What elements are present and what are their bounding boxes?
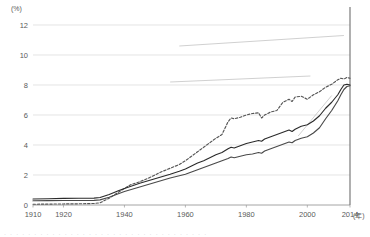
y-tick-6: 6 bbox=[24, 111, 28, 120]
y-tick-0: 0 bbox=[24, 201, 28, 210]
figure-footnote: · · · · · · · · · · · · · · · · · · · · … bbox=[4, 231, 364, 237]
series-dashed bbox=[33, 78, 350, 205]
series-solid-upper bbox=[33, 84, 350, 199]
y-tick-4: 4 bbox=[24, 141, 28, 150]
y-tick-2: 2 bbox=[24, 171, 28, 180]
y-tick-12: 12 bbox=[20, 21, 28, 30]
y-tick-10: 10 bbox=[20, 51, 28, 60]
series-solid-lower bbox=[33, 86, 350, 201]
chart-canvas: 024681012 1910192019401960198020002014 (… bbox=[0, 0, 370, 237]
leader-line-top bbox=[179, 36, 344, 47]
leader-line-low bbox=[298, 96, 332, 137]
leader-line-mid bbox=[170, 76, 310, 82]
data-series-group bbox=[33, 78, 350, 205]
x-axis-unit-label: (年) bbox=[353, 211, 365, 220]
x-tick-2000: 2000 bbox=[299, 210, 316, 219]
y-axis-unit-label: (%) bbox=[11, 5, 22, 13]
x-axis-tick-labels: 1910192019401960198020002014 bbox=[25, 205, 359, 219]
x-tick-1980: 1980 bbox=[238, 210, 255, 219]
x-tick-1920: 1920 bbox=[55, 210, 72, 219]
x-tick-1910: 1910 bbox=[25, 210, 42, 219]
gridlines bbox=[33, 25, 350, 205]
y-tick-8: 8 bbox=[24, 81, 28, 90]
chart-figure: 024681012 1910192019401960198020002014 (… bbox=[0, 0, 370, 237]
x-tick-1960: 1960 bbox=[177, 210, 194, 219]
y-axis-tick-labels: 024681012 bbox=[20, 21, 28, 210]
x-tick-1940: 1940 bbox=[116, 210, 133, 219]
